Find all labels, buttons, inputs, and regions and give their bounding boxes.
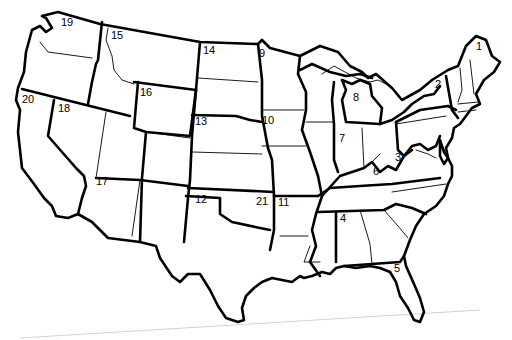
border-vt-nh (458, 68, 462, 102)
border-wa-or (40, 42, 92, 58)
region-boundaries (16, 12, 500, 322)
border-nv-ut (96, 112, 106, 178)
region-label-18: 18 (58, 102, 70, 114)
region-line-il-in (332, 82, 338, 172)
region-line-ok (188, 188, 274, 192)
region-label-2: 2 (435, 78, 441, 90)
us-outline (16, 12, 500, 322)
border-az-nm (132, 180, 140, 236)
region-label-5: 5 (394, 262, 400, 274)
border-al-ga (360, 210, 372, 264)
region-line-mt-nd (184, 42, 200, 242)
us-regions-map: 1 2 3 4 5 6 7 8 9 10 11 12 13 14 15 16 1… (0, 0, 512, 340)
border-md-va (416, 150, 436, 158)
region-label-14: 14 (203, 44, 215, 56)
border-ky-wv (372, 154, 380, 162)
border-ne-ks (192, 152, 262, 154)
region-label-17: 17 (96, 175, 108, 187)
region-label-20: 20 (22, 93, 34, 105)
region-line-ca-nv (48, 100, 86, 214)
border-in-oh (362, 128, 364, 168)
region-label-1: 1 (476, 40, 482, 52)
region-line-ny-ne (446, 76, 458, 118)
border-ct-ri (458, 110, 476, 112)
region-label-21: 21 (256, 195, 268, 207)
border-va-nc (392, 184, 446, 192)
border-nd-sd (198, 78, 258, 82)
region-line-ut-az (140, 132, 146, 242)
region-label-19: 19 (61, 16, 73, 28)
region-label-11: 11 (278, 196, 289, 208)
region-line-ne-ia (258, 44, 274, 250)
region-label-12: 12 (195, 193, 207, 205)
region-label-16: 16 (140, 86, 152, 98)
region-label-13: 13 (195, 115, 207, 127)
region-label-10: 10 (262, 114, 274, 126)
region-label-7: 7 (339, 132, 345, 144)
region-line-mississippi (298, 56, 322, 276)
region-label-15: 15 (111, 29, 123, 41)
region-label-4: 4 (340, 212, 346, 224)
region-line-19-east (88, 22, 102, 104)
region-label-9: 9 (259, 47, 265, 59)
border-ga-sc (384, 210, 408, 238)
region-label-6: 6 (373, 165, 379, 177)
region-label-8: 8 (353, 91, 359, 103)
region-line-tn-south (318, 204, 426, 214)
border-nh-me (470, 60, 474, 94)
region-line-mi (342, 80, 382, 124)
border-ma-top (458, 102, 478, 104)
region-label-3: 3 (395, 151, 401, 163)
region-line-or-ca (22, 89, 130, 116)
